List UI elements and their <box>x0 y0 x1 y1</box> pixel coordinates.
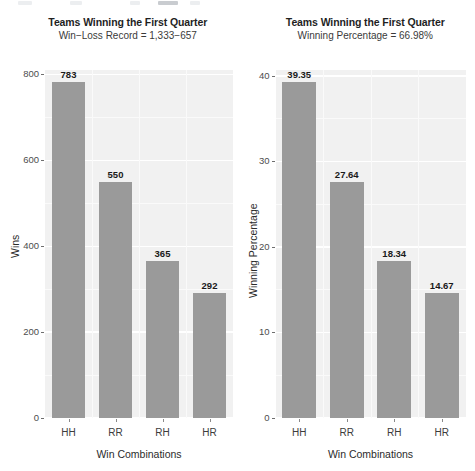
bar-value-label: 292 <box>186 280 233 291</box>
x-tick-label: HR <box>186 427 233 438</box>
gridline-minor-vertical <box>371 70 372 418</box>
bar-value-label: 365 <box>139 248 186 259</box>
chart-subtitle: Win−Loss Record = 1,333−657 <box>18 29 238 42</box>
y-tick-label: 200 <box>7 326 39 337</box>
y-tick-label: 30 <box>238 155 270 166</box>
x-tick-mark <box>210 419 211 422</box>
chart-subtitle: Winning Percentage = 66.98% <box>256 29 475 42</box>
x-tick-label: RH <box>139 427 186 438</box>
y-tick-label: 10 <box>238 326 270 337</box>
y-tick-mark <box>272 418 275 419</box>
bar[interactable] <box>282 82 316 418</box>
x-tick-label: RR <box>92 427 139 438</box>
x-tick-mark <box>442 419 443 422</box>
y-tick-mark <box>272 161 275 162</box>
gridline-minor-vertical <box>186 70 187 418</box>
bar[interactable] <box>425 293 459 418</box>
bar-value-label: 14.67 <box>418 280 466 291</box>
bar[interactable] <box>52 82 86 418</box>
x-axis-title: Win Combinations <box>276 448 466 460</box>
y-tick-label: 20 <box>238 241 270 252</box>
chart-header-wins: Teams Winning the First Quarter Win−Loss… <box>0 16 238 42</box>
x-tick-label: HR <box>418 427 466 438</box>
gridline-minor-vertical <box>418 70 419 418</box>
y-tick-label: 0 <box>238 412 270 423</box>
chart-wins: Teams Winning the First Quarter Win−Loss… <box>0 8 238 471</box>
x-tick-mark <box>394 419 395 422</box>
x-tick-label: RH <box>371 427 419 438</box>
bar[interactable] <box>330 182 364 418</box>
gridline-minor-vertical <box>139 70 140 418</box>
bar[interactable] <box>146 261 180 418</box>
chart-grid: Teams Winning the First Quarter Win−Loss… <box>0 8 475 471</box>
y-tick-label: 600 <box>7 154 39 165</box>
x-tick-mark <box>163 419 164 422</box>
y-tick-mark <box>41 418 44 419</box>
y-tick-mark <box>272 76 275 77</box>
y-tick-label: 400 <box>7 240 39 251</box>
cropped-toolbar-strip <box>0 0 475 8</box>
y-tick-label: 40 <box>238 70 270 81</box>
bar[interactable] <box>193 293 227 418</box>
chart-title: Teams Winning the First Quarter <box>256 16 475 29</box>
x-tick-label: HH <box>45 427 92 438</box>
y-tick-label: 0 <box>7 412 39 423</box>
y-tick-mark <box>41 160 44 161</box>
x-tick-mark <box>299 419 300 422</box>
gridline-minor-vertical <box>323 70 324 418</box>
x-axis-title: Win Combinations <box>45 448 233 460</box>
bar[interactable] <box>377 261 411 418</box>
y-tick-mark <box>272 332 275 333</box>
plot-panel <box>45 70 233 418</box>
bar-value-label: 550 <box>92 169 139 180</box>
y-tick-mark <box>41 246 44 247</box>
chart-winning-percentage: Teams Winning the First Quarter Winning … <box>238 8 475 471</box>
bar-value-label: 18.34 <box>371 248 419 259</box>
chart-header-percentage: Teams Winning the First Quarter Winning … <box>238 16 475 42</box>
y-tick-label: 800 <box>7 68 39 79</box>
plot-panel <box>276 70 466 418</box>
x-tick-label: RR <box>323 427 371 438</box>
bar-value-label: 39.35 <box>276 69 324 80</box>
chart-title: Teams Winning the First Quarter <box>18 16 238 29</box>
x-tick-label: HH <box>276 427 324 438</box>
bar-value-label: 27.64 <box>323 169 371 180</box>
x-tick-mark <box>116 419 117 422</box>
y-tick-mark <box>41 332 44 333</box>
y-tick-mark <box>41 74 44 75</box>
x-tick-mark <box>69 419 70 422</box>
bar[interactable] <box>99 182 133 418</box>
bar-value-label: 783 <box>45 69 92 80</box>
x-tick-mark <box>347 419 348 422</box>
gridline-minor-vertical <box>92 70 93 418</box>
y-tick-mark <box>272 247 275 248</box>
